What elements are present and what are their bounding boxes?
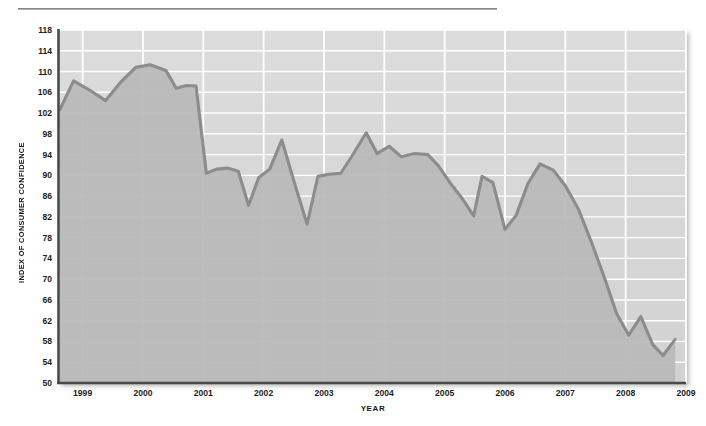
y-axis-title: INDEX OF CONSUMER CONFIDENCE xyxy=(14,118,30,308)
x-axis-title: YEAR xyxy=(361,404,386,413)
chart-plot-area xyxy=(0,0,706,426)
consumer-confidence-chart-figure: 5054586266707478828690949810210611011411… xyxy=(0,0,706,426)
x-axis-title-wrap: YEAR xyxy=(0,404,706,413)
